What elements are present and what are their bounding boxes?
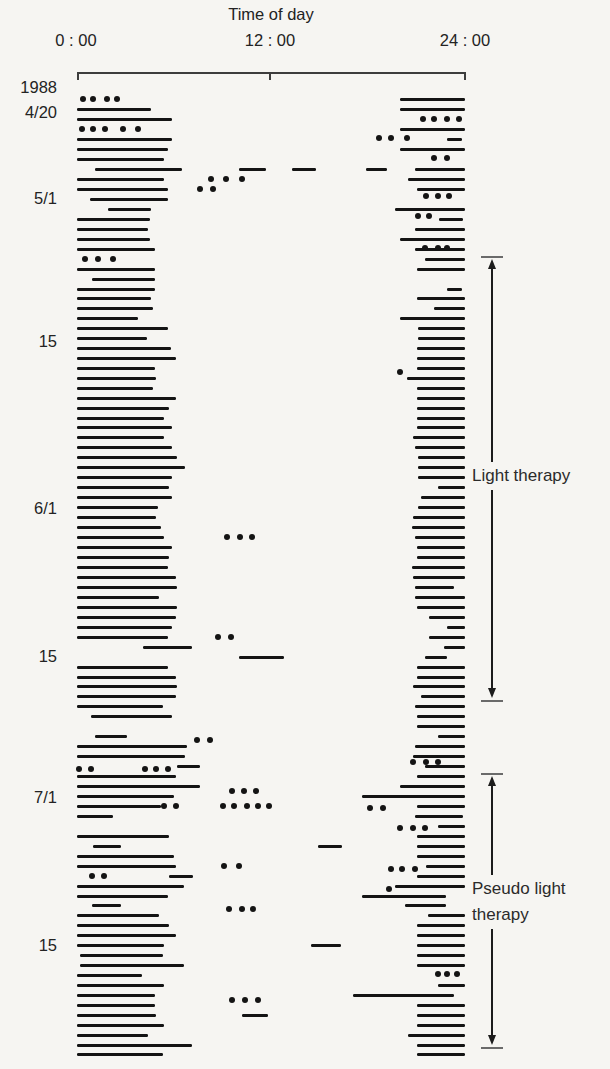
- sleep-bar: [77, 994, 155, 997]
- event-dot: [399, 866, 405, 872]
- sleep-bar: [447, 138, 462, 141]
- sleep-bar: [77, 297, 151, 300]
- sleep-bar: [418, 506, 465, 509]
- event-dot: [376, 135, 382, 141]
- sleep-bar: [400, 148, 465, 151]
- event-dot: [255, 803, 261, 809]
- sleep-bar: [77, 695, 176, 698]
- sleep-bar: [77, 536, 164, 539]
- sleep-bar: [77, 676, 176, 679]
- event-dot: [253, 788, 259, 794]
- sleep-bar: [77, 705, 163, 708]
- x-tick-label-12: 12 : 00: [245, 31, 295, 50]
- event-dot: [76, 766, 82, 772]
- event-dot: [456, 116, 462, 122]
- date-label: 4/20: [0, 103, 57, 122]
- event-dot: [95, 256, 101, 262]
- sleep-bar: [77, 317, 138, 320]
- sleep-bar: [413, 516, 465, 519]
- sleep-bar: [77, 666, 168, 669]
- sleep-bar: [77, 486, 169, 489]
- sleep-bar: [77, 546, 172, 549]
- event-dot: [431, 116, 437, 122]
- event-dot: [386, 886, 392, 892]
- sleep-bar: [417, 676, 466, 679]
- sleep-bar: [417, 357, 466, 360]
- event-dot: [380, 805, 386, 811]
- arrow-bottom-bar: [481, 700, 503, 702]
- event-dot: [435, 245, 441, 251]
- sleep-bar: [417, 944, 466, 947]
- sleep-bar: [400, 108, 465, 111]
- x-tick-label-24: 24 : 00: [440, 31, 490, 50]
- event-dot: [102, 126, 108, 132]
- sleep-bar: [407, 377, 465, 380]
- arrow-top-bar: [481, 256, 503, 258]
- event-dot: [208, 176, 214, 182]
- x-axis-line: [77, 72, 466, 74]
- sleep-bar: [434, 307, 465, 310]
- event-dot: [388, 866, 394, 872]
- date-label: 6/1: [0, 499, 57, 518]
- sleep-bar: [77, 496, 172, 499]
- sleep-bar: [77, 238, 150, 241]
- sleep-bar: [77, 466, 185, 469]
- sleep-bar: [425, 765, 465, 768]
- event-dot: [135, 126, 141, 132]
- sleep-bar: [77, 745, 187, 748]
- sleep-bar: [91, 715, 173, 718]
- sleep-bar: [405, 904, 445, 907]
- event-dot: [221, 863, 227, 869]
- arrow-top-bar: [481, 773, 503, 775]
- sleep-bar: [77, 248, 155, 251]
- event-dot: [444, 971, 450, 977]
- therapy-label-line: Light therapy: [472, 463, 570, 489]
- sleep-bar: [77, 865, 176, 868]
- sleep-bar: [77, 436, 164, 439]
- date-label: 15: [0, 647, 57, 666]
- sleep-bar: [415, 446, 465, 449]
- event-dot: [423, 193, 429, 199]
- sleep-bar: [417, 934, 466, 937]
- sleep-bar: [417, 556, 466, 559]
- sleep-bar: [77, 815, 113, 818]
- sleep-bar: [77, 1004, 155, 1007]
- therapy-label-line: Pseudo light: [472, 876, 566, 902]
- sleep-bar: [77, 755, 185, 758]
- sleep-bar: [93, 845, 120, 848]
- event-dot: [224, 534, 230, 540]
- sleep-bar: [77, 855, 174, 858]
- sleep-bar: [412, 526, 465, 529]
- sleep-bar: [77, 178, 164, 181]
- event-dot: [194, 737, 200, 743]
- sleep-bar: [417, 387, 466, 390]
- event-dot: [249, 534, 255, 540]
- sleep-bar: [311, 944, 340, 947]
- event-dot: [207, 737, 213, 743]
- sleep-bar: [362, 795, 465, 798]
- event-dot: [210, 186, 216, 192]
- sleep-bar: [77, 914, 159, 917]
- event-dot: [110, 256, 116, 262]
- sleep-bar: [77, 944, 164, 947]
- sleep-bar: [239, 168, 266, 171]
- sleep-bar: [417, 188, 466, 191]
- sleep-bar: [77, 337, 147, 340]
- sleep-bar: [77, 288, 155, 291]
- sleep-bar: [418, 466, 465, 469]
- event-dot: [89, 873, 95, 879]
- sleep-bar: [77, 367, 155, 370]
- event-dot: [242, 997, 248, 1003]
- event-dot: [114, 96, 120, 102]
- sleep-bar: [90, 198, 168, 201]
- sleep-bar: [77, 606, 177, 609]
- sleep-bar: [77, 685, 177, 688]
- x-axis-tick-24: [464, 72, 466, 80]
- sleep-bar: [400, 128, 465, 131]
- event-dot: [197, 186, 203, 192]
- event-dot: [161, 803, 167, 809]
- event-dot: [79, 126, 85, 132]
- sleep-bar: [77, 218, 150, 221]
- sleep-bar: [77, 596, 159, 599]
- date-label: 7/1: [0, 788, 57, 807]
